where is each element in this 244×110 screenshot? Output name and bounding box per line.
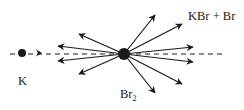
scattered-arrow-1 [124,15,155,54]
scattered-arrow-4 [124,54,193,62]
scattered-arrow-10 [79,54,124,74]
projectile-label-k: K [18,75,27,88]
bromine-molecule-dot [118,48,130,60]
incoming-direction-arrow-icon [36,50,42,57]
target-label-br2: Br2 [120,88,137,103]
scattered-arrow-9 [58,54,124,61]
products-label: KBr + Br [188,10,235,23]
potassium-atom-dot [18,49,26,57]
scattered-arrow-5 [124,54,182,84]
